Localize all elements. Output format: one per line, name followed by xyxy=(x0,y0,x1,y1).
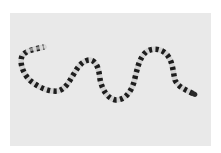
snake-illustration xyxy=(0,0,221,153)
